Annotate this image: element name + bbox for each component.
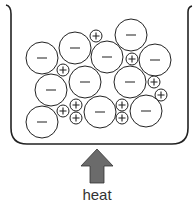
negative-ion <box>84 96 116 128</box>
negative-ion <box>114 66 146 98</box>
heat-arrow-icon <box>81 149 113 183</box>
positive-ion <box>116 112 128 124</box>
positive-ion <box>116 99 128 111</box>
negative-ion <box>139 44 171 76</box>
positive-ion <box>155 89 167 101</box>
negative-ion <box>115 19 147 51</box>
positive-ion <box>148 76 160 88</box>
negative-ion <box>91 41 123 73</box>
negative-ion <box>26 106 58 138</box>
heat-label: heat <box>0 186 194 203</box>
positive-ion <box>57 105 69 117</box>
positive-ion <box>126 53 138 65</box>
negative-ion <box>59 32 91 64</box>
positive-ion <box>70 99 82 111</box>
positive-ion <box>90 30 102 42</box>
negative-ion <box>35 74 67 106</box>
negative-ion <box>69 66 101 98</box>
negative-ion <box>26 42 58 74</box>
positive-ion <box>57 64 69 76</box>
ionic-lattice-diagram <box>0 0 194 209</box>
positive-ion <box>70 112 82 124</box>
